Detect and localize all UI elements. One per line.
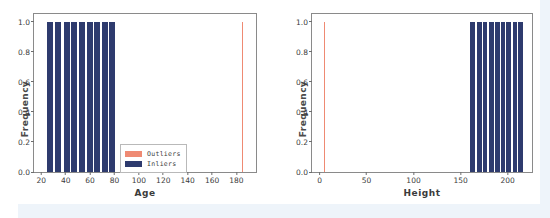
bar-inlier-height: [501, 22, 506, 172]
bar-inlier-height: [489, 22, 494, 172]
legend-swatch-inliers-icon: [125, 161, 142, 167]
x-tick-label: 20: [37, 172, 47, 185]
y-tick-label: 0.0: [296, 168, 312, 177]
bar-outlier-height: [324, 22, 325, 172]
legend-label-outliers: Outliers: [147, 150, 181, 158]
y-tick-label: 1.0: [18, 17, 34, 26]
x-tick-label: 50: [362, 172, 372, 185]
bar-inlier-height: [495, 22, 500, 172]
x-tick-label: 80: [110, 172, 120, 185]
plot-area-height: 0.00.20.40.60.81.0050100150200: [311, 13, 533, 173]
y-tick-label: 0.2: [18, 137, 34, 146]
x-tick-label: 180: [229, 172, 243, 185]
legend-label-inliers: Inliers: [147, 160, 177, 168]
chart-panel-height: Frequency 0.00.20.40.60.81.0050100150200…: [275, 0, 550, 218]
y-tick-label: 0.6: [296, 77, 312, 86]
x-tick-label: 100: [406, 172, 420, 185]
bar-outlier-age: [242, 22, 243, 172]
bar-inlier-height: [483, 22, 488, 172]
x-tick-label: 150: [453, 172, 467, 185]
x-tick-label: 40: [61, 172, 71, 185]
legend-entry-inliers: Inliers: [125, 159, 181, 168]
bar-inlier-age: [47, 22, 53, 172]
y-tick-label: 0.4: [18, 107, 34, 116]
y-tick-label: 0.4: [296, 107, 312, 116]
bar-inlier-age: [87, 22, 93, 172]
bar-inlier-age: [71, 22, 77, 172]
bar-inlier-age: [79, 22, 85, 172]
x-tick-label: 120: [156, 172, 170, 185]
legend-age: Outliers Inliers: [120, 144, 187, 173]
bar-inlier-age: [64, 22, 70, 172]
figure-canvas: Frequency 0.00.20.40.60.81.0204060801001…: [0, 0, 550, 218]
chart-panel-age: Frequency 0.00.20.40.60.81.0204060801001…: [0, 0, 275, 218]
bar-inlier-age: [109, 22, 115, 172]
x-tick-label: 100: [132, 172, 146, 185]
bar-inlier-height: [513, 22, 518, 172]
y-tick-label: 0.6: [18, 77, 34, 86]
y-tick-label: 0.8: [18, 47, 34, 56]
x-tick-label: 60: [85, 172, 95, 185]
x-axis-label-age: Age: [134, 188, 155, 198]
x-tick-label: 160: [205, 172, 219, 185]
bar-inlier-height: [477, 22, 482, 172]
y-tick-label: 1.0: [296, 17, 312, 26]
legend-entry-outliers: Outliers: [125, 149, 181, 158]
bar-inlier-height: [470, 22, 475, 172]
x-tick-label: 200: [500, 172, 514, 185]
x-axis-label-height: Height: [404, 188, 441, 198]
bar-inlier-height: [518, 22, 523, 172]
x-tick-label: 0: [317, 172, 322, 185]
bar-inlier-height: [506, 22, 511, 172]
bar-inlier-age: [55, 22, 61, 172]
bar-inlier-age: [94, 22, 100, 172]
y-tick-label: 0.8: [296, 47, 312, 56]
bar-inlier-age: [102, 22, 108, 172]
y-tick-label: 0.0: [18, 168, 34, 177]
legend-swatch-outliers-icon: [125, 151, 142, 157]
x-tick-label: 140: [181, 172, 195, 185]
y-tick-label: 0.2: [296, 137, 312, 146]
